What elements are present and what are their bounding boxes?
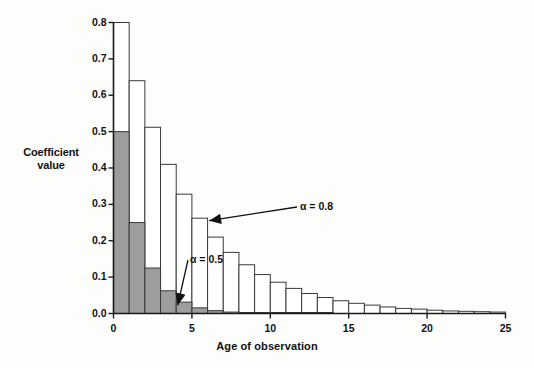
- bar-alpha-0-8: [223, 252, 239, 313]
- x-tick-label: 25: [491, 322, 521, 334]
- bar-alpha-0-5: [145, 268, 161, 313]
- y-tick-label: 0.1: [75, 270, 107, 282]
- annotation-alpha-0-8: α = 0.8: [300, 200, 333, 212]
- bar-alpha-0-8: [302, 293, 318, 313]
- bars-series-alpha-0-8: [114, 23, 506, 314]
- bar-alpha-0-5: [161, 291, 177, 314]
- bar-alpha-0-8: [349, 303, 365, 313]
- y-tick-label: 0.4: [75, 161, 107, 173]
- bar-alpha-0-8: [208, 237, 224, 313]
- x-tick-label: 20: [412, 322, 442, 334]
- y-tick-label: 0.2: [75, 234, 107, 246]
- y-tick-label: 0.0: [75, 307, 107, 319]
- y-tick-label: 0.5: [75, 125, 107, 137]
- annotation-alpha-0-5: α = 0.5: [190, 253, 223, 265]
- bar-alpha-0-5: [129, 223, 145, 314]
- bar-alpha-0-8: [286, 288, 302, 313]
- bar-alpha-0-5: [192, 308, 208, 314]
- arrow-alpha-0-8-head: [209, 214, 222, 224]
- bar-alpha-0-8: [317, 298, 333, 314]
- bar-alpha-0-8: [380, 307, 396, 314]
- bar-alpha-0-8: [364, 305, 380, 313]
- bar-alpha-0-8: [192, 218, 208, 313]
- y-tick-label: 0.8: [75, 16, 107, 28]
- bar-alpha-0-8: [239, 265, 255, 314]
- x-tick-label: 0: [99, 322, 129, 334]
- bar-alpha-0-8: [255, 275, 271, 314]
- y-tick-label: 0.6: [75, 88, 107, 100]
- arrow-alpha-0-8-line: [209, 207, 297, 221]
- bar-alpha-0-8: [333, 301, 349, 314]
- y-tick-label: 0.3: [75, 197, 107, 209]
- y-axis-title-line1: Coefficient: [12, 146, 90, 159]
- x-tick-label: 15: [334, 322, 364, 334]
- bar-alpha-0-5: [114, 132, 130, 314]
- y-tick-label: 0.7: [75, 52, 107, 64]
- x-tick-label: 10: [255, 322, 285, 334]
- x-axis-title: Age of observation: [0, 340, 534, 352]
- chart-figure: Coefficient value Age of observation 0.0…: [0, 0, 534, 368]
- bar-alpha-0-8: [270, 282, 286, 313]
- x-tick-label: 5: [177, 322, 207, 334]
